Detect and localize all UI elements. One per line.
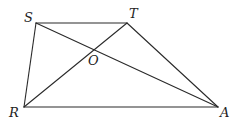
segment-RT <box>24 23 127 107</box>
point-label-S: S <box>24 10 33 25</box>
segment-SR <box>24 23 36 107</box>
point-label-T: T <box>129 6 139 21</box>
segment-SA <box>36 23 218 107</box>
geometry-diagram: S T R A O <box>0 0 237 122</box>
point-label-O: O <box>88 53 99 68</box>
diagram-edges <box>24 23 218 107</box>
point-label-R: R <box>8 105 19 120</box>
point-label-A: A <box>219 105 229 120</box>
segment-TA <box>127 23 218 107</box>
